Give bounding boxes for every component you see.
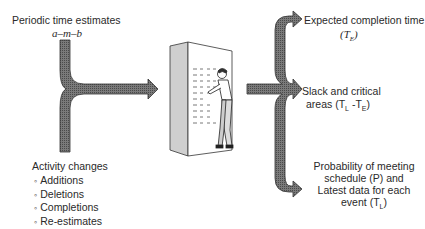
activity-changes-list: Additions Deletions Completions Re-estim… (34, 174, 102, 228)
expected-completion-symbol: (TE) (340, 28, 358, 45)
output-split-arrow (247, 11, 302, 197)
expected-completion-label: Expected completion time (304, 14, 424, 26)
list-item: Completions (34, 201, 102, 215)
estimate-formula: a–m–b (52, 27, 82, 39)
list-item: Re-estimates (34, 215, 102, 229)
input-merge-arrow (60, 40, 158, 152)
list-item: Deletions (34, 188, 102, 202)
activity-changes-label: Activity changes (32, 160, 108, 172)
slack-critical-symbol: areas (TL -TE) (306, 98, 370, 115)
slack-critical-label: Slack and critical (302, 85, 381, 97)
probability-label: Probability of meeting schedule (P) and … (303, 160, 425, 213)
periodic-estimates-label: Periodic time estimates (12, 14, 121, 26)
list-item: Additions (34, 174, 102, 188)
